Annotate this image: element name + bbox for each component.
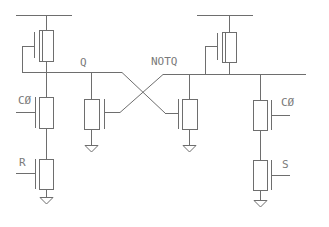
label-r: R <box>19 156 26 169</box>
net-notq: NOTQ <box>120 55 306 113</box>
transistor-body <box>40 160 54 190</box>
ground-icon <box>183 146 196 153</box>
label-s: S <box>282 158 289 171</box>
nmos-cross-left <box>85 99 121 152</box>
nmos-c0-left: CØ <box>16 94 54 159</box>
nmos-r: R <box>16 156 54 204</box>
net-q: Q <box>22 56 165 113</box>
circuit-diagram: Q NOTQ CØ R <box>0 0 329 227</box>
label-c0-left: CØ <box>18 94 32 107</box>
transistor-body <box>254 101 268 131</box>
pmos-left <box>16 15 72 97</box>
ground-icon <box>40 198 53 205</box>
ground-icon <box>254 201 267 208</box>
transistor-body <box>223 33 237 63</box>
transistor-body <box>183 100 198 130</box>
label-q: Q <box>80 56 87 69</box>
pmos-right <box>197 15 253 75</box>
nmos-c0-right: CØ <box>254 96 295 160</box>
ground-icon <box>85 146 98 153</box>
gate-feedback-wire <box>23 47 35 73</box>
nmos-cross-right <box>165 99 198 152</box>
gate-feedback-wire <box>206 47 218 75</box>
transistor-body <box>40 31 54 62</box>
nmos-s: S <box>254 158 291 207</box>
label-c0-right: CØ <box>281 96 295 109</box>
transistor-body <box>40 98 54 129</box>
label-notq: NOTQ <box>151 55 178 68</box>
transistor-body <box>85 100 100 130</box>
transistor-body <box>254 161 268 191</box>
